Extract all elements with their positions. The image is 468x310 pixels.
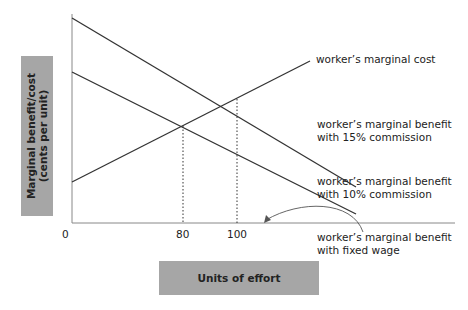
y-axis-label-line1: Marginal benefit/cost: [25, 73, 37, 199]
label-benefit-10: worker’s marginal benefit with 10% commi…: [317, 175, 452, 201]
label-marginal-cost: worker’s marginal cost: [316, 53, 435, 66]
y-axis-label-line2: (cents per unit): [37, 73, 49, 199]
tick-80: 80: [176, 228, 189, 240]
marginal-cost-line: [72, 61, 310, 182]
x-axis-label: Units of effort: [197, 272, 280, 284]
label-benefit-10-line1: worker’s marginal benefit: [317, 175, 452, 188]
benefit-15-line: [72, 18, 356, 187]
label-benefit-15: worker’s marginal benefit with 15% commi…: [317, 118, 452, 144]
label-benefit-15-line1: worker’s marginal benefit: [317, 118, 452, 131]
y-axis-label: Marginal benefit/cost(cents per unit): [25, 73, 49, 199]
benefit-10-line: [72, 72, 356, 214]
tick-100: 100: [227, 228, 247, 240]
tick-0: 0: [62, 228, 69, 240]
label-benefit-10-line2: with 10% commission: [317, 188, 452, 201]
diagram: Marginal benefit/cost(cents per unit) 0 …: [0, 0, 468, 310]
arrowhead-icon: [264, 215, 271, 223]
y-axis-label-box: Marginal benefit/cost(cents per unit): [21, 56, 53, 216]
label-fixed-wage: worker’s marginal benefit with fixed wag…: [317, 231, 452, 257]
label-benefit-15-line2: with 15% commission: [317, 131, 452, 144]
label-fixed-wage-line2: with fixed wage: [317, 244, 452, 257]
x-axis-label-box: Units of effort: [159, 261, 319, 295]
label-fixed-wage-line1: worker’s marginal benefit: [317, 231, 452, 244]
